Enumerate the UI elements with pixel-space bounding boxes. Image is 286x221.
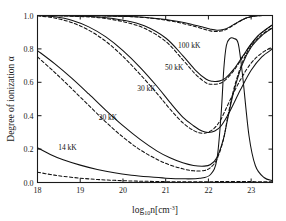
y-tick-label: 0.0 <box>24 179 34 188</box>
x-axis-title-main: log <box>132 205 144 215</box>
y-tick-label: 0.6 <box>24 78 34 87</box>
x-tick-label: 21 <box>162 186 170 195</box>
y-tick-label: 0.2 <box>24 145 34 154</box>
x-axis-title-rest: n[cm <box>150 205 170 215</box>
x-tick-label: 22 <box>204 186 212 195</box>
curve-label: 100 kK <box>178 41 201 50</box>
x-tick-label: 18 <box>34 186 42 195</box>
x-tick-label: 23 <box>247 186 255 195</box>
x-tick-label: 19 <box>76 186 84 195</box>
curve-label: 50 kK <box>165 63 184 72</box>
x-axis-title-close: ] <box>175 205 178 215</box>
curve-label: 14 kK <box>58 143 77 152</box>
figure-background <box>0 0 286 221</box>
curve-label: 20 kK <box>99 113 118 122</box>
x-tick-label: 20 <box>119 186 127 195</box>
ionization-plot: 1819202122230.00.20.40.60.81.0 100 kK50 … <box>0 0 286 221</box>
curve-label: 30 kK <box>137 84 156 93</box>
y-tick-label: 0.4 <box>24 112 34 121</box>
chart-figure: 1819202122230.00.20.40.60.81.0 100 kK50 … <box>0 0 286 221</box>
y-axis-title: Degree of ionization α <box>6 56 16 141</box>
y-tick-label: 0.8 <box>24 45 34 54</box>
y-tick-label: 1.0 <box>24 12 34 21</box>
